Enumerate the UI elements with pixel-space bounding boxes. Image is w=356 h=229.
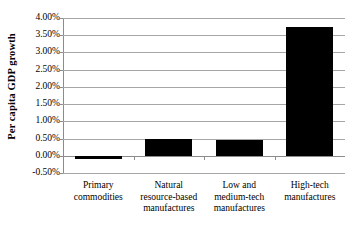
x-axis-category-label-line: manufactures <box>269 192 352 204</box>
y-axis-tick-label: 3.50% <box>22 30 60 40</box>
gridline <box>63 173 345 174</box>
y-axis-tick-mark <box>59 18 63 19</box>
y-axis-tick-mark <box>59 87 63 88</box>
bar-chart: Per capita GDP growth 4.00%3.50%3.00%2.5… <box>0 0 356 229</box>
x-axis-tick-mark <box>134 156 135 160</box>
y-axis-tick-label: 4.00% <box>22 13 60 23</box>
y-axis-tick-label: 0.50% <box>22 134 60 144</box>
y-axis-tick-label: 3.00% <box>22 48 60 58</box>
y-axis-tick-label: 0.00% <box>22 151 60 161</box>
y-axis-tick-mark <box>59 35 63 36</box>
y-axis-tick-label: 1.00% <box>22 117 60 127</box>
y-axis-tick-mark <box>59 173 63 174</box>
y-axis-tick-label: 2.50% <box>22 65 60 75</box>
bar <box>75 156 122 159</box>
y-axis-tick-label: -0.50% <box>22 168 60 178</box>
x-axis-category-label-line: High-tech <box>269 180 352 192</box>
y-axis-tick-mark <box>59 70 63 71</box>
y-axis-tick-mark <box>59 139 63 140</box>
x-axis-category-labels: PrimarycommoditiesNaturalresource-basedm… <box>63 180 345 226</box>
y-axis-tick-label: 1.50% <box>22 99 60 109</box>
y-axis-tick-labels: 4.00%3.50%3.00%2.50%2.00%1.50%1.00%0.50%… <box>22 18 60 173</box>
y-axis-title: Per capita GDP growth <box>0 0 22 173</box>
bar <box>216 140 263 156</box>
bar <box>145 139 192 156</box>
x-axis-category-label-line: manufactures <box>198 203 281 215</box>
bar <box>286 27 333 156</box>
x-axis-tick-mark <box>204 156 205 160</box>
plot-area <box>63 18 345 173</box>
x-axis-category-label: High-techmanufactures <box>269 180 352 203</box>
y-axis-tick-label: 2.00% <box>22 82 60 92</box>
y-axis-line <box>63 18 64 173</box>
gridline <box>63 18 345 19</box>
y-axis-tick-mark <box>59 104 63 105</box>
y-axis-tick-mark <box>59 121 63 122</box>
x-axis-tick-mark <box>275 156 276 160</box>
y-axis-tick-mark <box>59 52 63 53</box>
y-axis-tick-mark <box>59 156 63 157</box>
